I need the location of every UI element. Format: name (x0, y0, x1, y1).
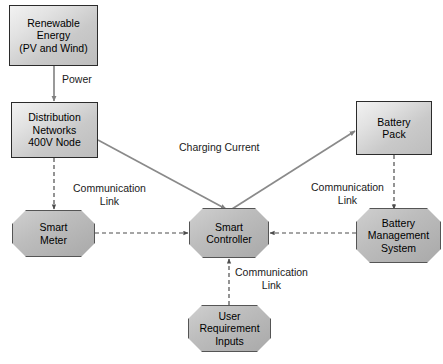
node-user-requirement-inputs[interactable]: UserRequirementInputs (188, 305, 271, 352)
node-battery-pack[interactable]: BatteryPack (356, 101, 432, 155)
node-renewable-energy-label: RenewableEnergy(PV and Wind) (10, 17, 97, 55)
node-distribution-networks-label: DistributionNetworks400V Node (12, 111, 97, 149)
node-battery-management-system-label: BatteryManagementSystem (357, 217, 440, 255)
node-battery-pack-label: BatteryPack (357, 116, 431, 141)
node-renewable-energy[interactable]: RenewableEnergy(PV and Wind) (9, 5, 98, 66)
edge-label-charging-current: Charging Current (179, 141, 279, 154)
node-smart-meter[interactable]: SmartMeter (12, 210, 95, 257)
diagram-canvas: RenewableEnergy(PV and Wind) Distributio… (0, 0, 443, 364)
node-smart-meter-label: SmartMeter (13, 221, 94, 246)
edge-label-communication-link-meter: CommunicationLink (62, 182, 157, 207)
node-distribution-networks[interactable]: DistributionNetworks400V Node (11, 102, 98, 158)
node-smart-controller-label: SmartController (190, 221, 268, 246)
node-battery-management-system[interactable]: BatteryManagementSystem (356, 208, 441, 263)
edge-label-power: Power (62, 73, 104, 86)
edge-label-communication-link-user: CommunicationLink (224, 266, 319, 291)
edge-label-communication-link-bms: CommunicationLink (300, 181, 395, 206)
node-user-requirement-inputs-label: UserRequirementInputs (189, 310, 270, 348)
node-smart-controller[interactable]: SmartController (189, 208, 269, 258)
